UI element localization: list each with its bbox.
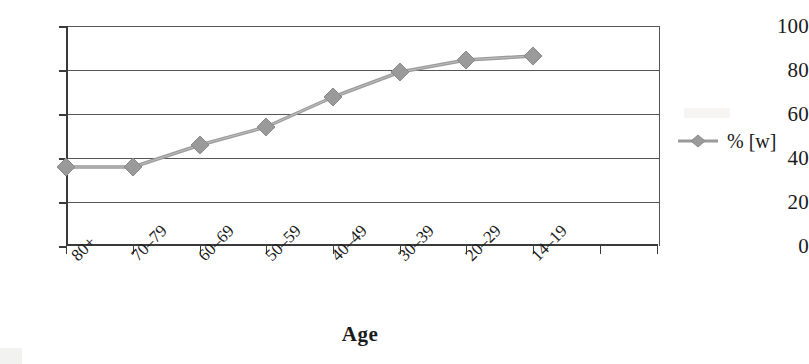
- gridline-20: [68, 202, 660, 203]
- scan-artifact: [0, 348, 22, 364]
- chart-legend: % [w]: [676, 131, 776, 151]
- y-tick-mark: [59, 26, 66, 28]
- diamond-marker-icon: [676, 133, 720, 149]
- y-tick-label-0: 0: [765, 236, 809, 257]
- y-tick-label-100: 100: [765, 16, 809, 37]
- y-tick-mark: [59, 158, 66, 160]
- plot-right-edge: [659, 26, 660, 246]
- gridline-60: [68, 114, 660, 115]
- scan-artifact: [684, 108, 730, 118]
- gridline-80: [68, 70, 660, 71]
- plot-area: [66, 26, 658, 246]
- y-tick-label-60: 60: [765, 104, 809, 125]
- x-tick-mark: [657, 246, 658, 254]
- y-tick-mark: [59, 114, 66, 116]
- x-axis-title: Age: [0, 322, 720, 347]
- y-tick-label-80: 80: [765, 60, 809, 81]
- gridline-40: [68, 158, 660, 159]
- line-chart: 100 80 60 40 20 0 80+ 70–79: [0, 0, 809, 364]
- y-tick-mark: [59, 202, 66, 204]
- legend-label-pct-w: % [w]: [727, 131, 776, 151]
- y-tick-mark: [59, 246, 66, 248]
- y-tick-label-20: 20: [765, 192, 809, 213]
- y-tick-mark: [59, 70, 66, 72]
- x-tick-mark: [600, 246, 601, 254]
- gridline-100: [68, 26, 660, 27]
